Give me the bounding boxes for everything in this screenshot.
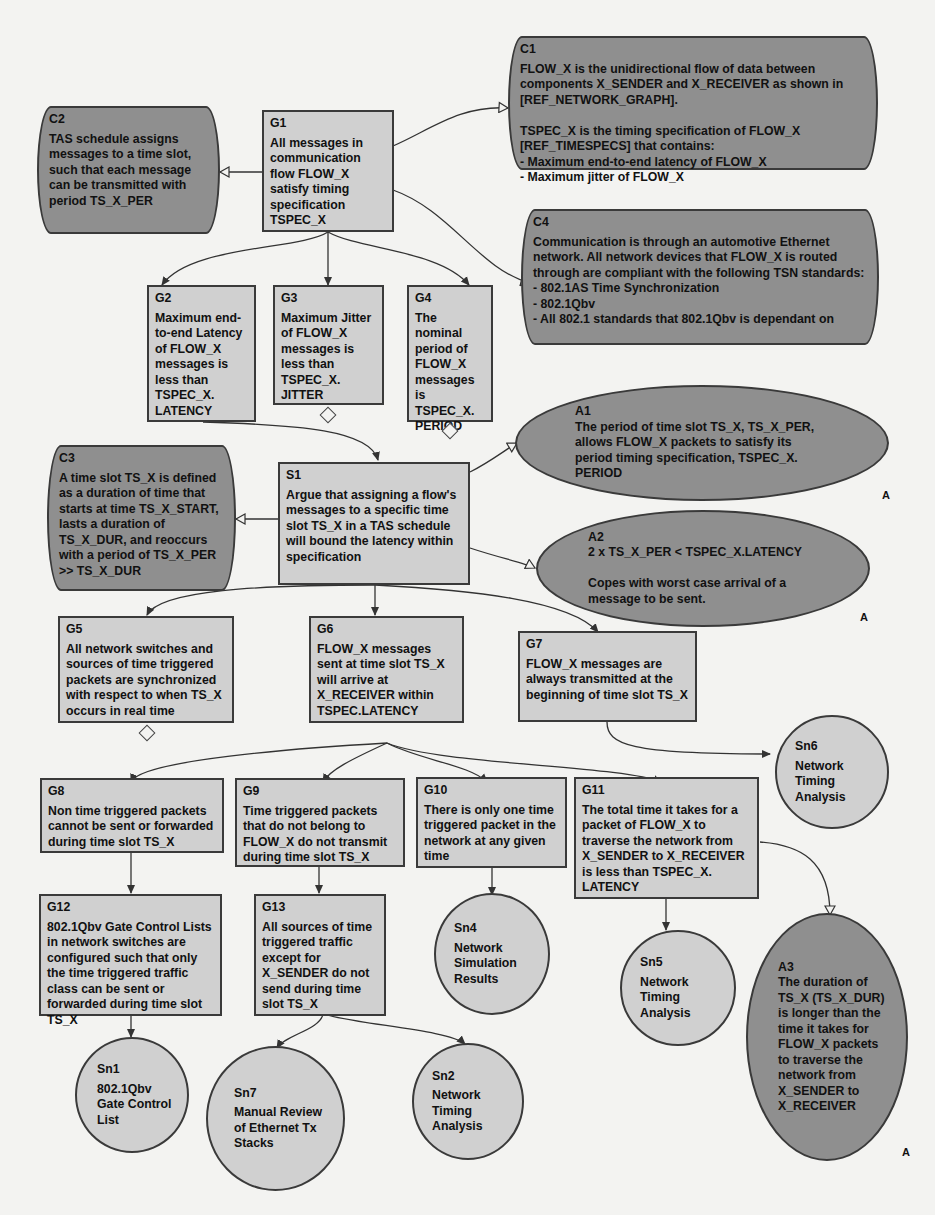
node-id: Sn2 [432,1069,516,1085]
node-id: G11 [582,783,751,799]
node-text: FLOW_X messages are always transmitted a… [526,657,689,704]
undeveloped-diamond-icon [139,725,156,742]
node-id: Sn4 [454,921,542,937]
solution-Sn1[interactable]: Sn1 802.1Qbv Gate Control List [75,1037,189,1153]
node-text: TAS schedule assigns messages to a time … [49,132,212,210]
goal-G3[interactable]: G3 Maximum Jitter of FLOW_X messages is … [273,285,384,405]
goal-G1[interactable]: G1 All messages in communication flow FL… [262,110,394,232]
goal-G10[interactable]: G10 There is only one time triggered pac… [416,777,567,868]
goal-G6[interactable]: G6 FLOW_X messages sent at time slot TS_… [309,616,464,723]
node-text: Network Simulation Results [454,941,542,988]
assumption-marker: A [860,611,868,623]
goal-G13[interactable]: G13 All sources of time triggered traffi… [254,894,386,1016]
node-id: G4 [415,291,485,307]
context-C1[interactable]: C1 FLOW_X is the unidirectional flow of … [508,36,878,170]
node-id: Sn5 [640,955,728,971]
node-text: The nominal period of FLOW_X messages is… [415,311,485,435]
node-id: G2 [155,291,248,307]
gsn-diagram: C2 TAS schedule assigns messages to a ti… [0,0,935,1215]
solution-Sn2[interactable]: Sn2 Network Timing Analysis [412,1043,524,1160]
node-id: G13 [262,900,378,916]
node-id: A2 [588,530,828,546]
undeveloped-diamond-icon [320,407,337,424]
solution-Sn4[interactable]: Sn4 Network Simulation Results [434,893,550,1015]
solution-Sn6[interactable]: Sn6 Network Timing Analysis [775,715,889,829]
solution-Sn7[interactable]: Sn7 Manual Review of Ethernet Tx Stacks [206,1046,345,1191]
node-text: Network Timing Analysis [640,975,728,1022]
node-text: All sources of time triggered traffic ex… [262,920,378,1013]
strategy-S1[interactable]: S1 Argue that assigning a flow's message… [278,462,470,585]
node-text: 802.1Qbv Gate Control List [97,1082,181,1129]
node-id: G9 [243,784,397,800]
node-id: A1 [575,404,827,420]
node-id: Sn6 [795,739,881,755]
node-text: Manual Review of Ethernet Tx Stacks [234,1105,337,1152]
node-id: Sn7 [234,1086,337,1102]
node-id: G10 [424,783,559,799]
node-text: Network Timing Analysis [432,1088,516,1135]
node-id: Sn1 [97,1062,181,1078]
assumption-A1[interactable]: A1 The period of time slot TS_X, TS_X_PE… [515,385,889,501]
node-text: All messages in communication flow FLOW_… [270,136,386,229]
node-id: G3 [281,291,376,307]
node-text: FLOW_X messages sent at time slot TS_X w… [317,642,456,720]
assumption-marker: A [902,1146,910,1158]
node-id: C1 [520,42,870,58]
goal-G2[interactable]: G2 Maximum end-to-end Latency of FLOW_X … [147,285,256,422]
node-text: The duration of TS_X (TS_X_DUR) is longe… [778,975,886,1115]
goal-G4[interactable]: G4 The nominal period of FLOW_X messages… [407,285,493,422]
assumption-A3[interactable]: A3 The duration of TS_X (TS_X_DUR) is lo… [746,913,908,1161]
goal-G12[interactable]: G12 802.1Qbv Gate Control Lists in netwo… [39,894,222,1016]
node-text: Time triggered packets that do not belon… [243,804,397,866]
node-text: Maximum Jitter of FLOW_X messages is les… [281,311,376,404]
assumption-marker: A [882,489,890,501]
goal-G9[interactable]: G9 Time triggered packets that do not be… [235,778,405,867]
node-text: Communication is through an automotive E… [533,235,871,328]
assumption-A2[interactable]: A2 2 x TS_X_PER < TSPEC_X.LATENCY Copes … [536,510,870,627]
solution-Sn5[interactable]: Sn5 Network Timing Analysis [620,930,736,1046]
context-C3[interactable]: C3 A time slot TS_X is defined as a dura… [47,445,236,591]
goal-G11[interactable]: G11 The total time it takes for a packet… [574,777,759,899]
node-text: 802.1Qbv Gate Control Lists in network s… [47,920,214,1029]
goal-G7[interactable]: G7 FLOW_X messages are always transmitte… [518,631,697,722]
node-text: The total time it takes for a packet of … [582,803,751,896]
node-text: Non time triggered packets cannot be sen… [48,804,216,851]
node-id: G7 [526,637,689,653]
node-id: C2 [49,112,212,128]
node-text: A time slot TS_X is defined as a duratio… [59,471,228,580]
goal-G5[interactable]: G5 All network switches and sources of t… [58,616,234,723]
node-id: G1 [270,116,386,132]
node-id: S1 [286,468,462,484]
node-id: G5 [66,622,226,638]
node-text: FLOW_X is the unidirectional flow of dat… [520,62,870,186]
node-text: 2 x TS_X_PER < TSPEC_X.LATENCY Copes wit… [588,545,828,607]
node-text: Network Timing Analysis [795,759,881,806]
context-C4[interactable]: C4 Communication is through an automotiv… [521,209,879,345]
node-id: C4 [533,215,871,231]
node-text: All network switches and sources of time… [66,642,226,720]
node-id: G6 [317,622,456,638]
node-id: G8 [48,784,216,800]
context-C2[interactable]: C2 TAS schedule assigns messages to a ti… [37,106,220,234]
node-id: G12 [47,900,214,916]
node-text: The period of time slot TS_X, TS_X_PER, … [575,420,827,482]
node-text: There is only one time triggered packet … [424,803,559,865]
node-id: A3 [778,960,886,976]
goal-G8[interactable]: G8 Non time triggered packets cannot be … [40,778,224,853]
node-text: Argue that assigning a flow's messages t… [286,488,462,566]
node-id: C3 [59,451,228,467]
node-text: Maximum end-to-end Latency of FLOW_X mes… [155,311,248,420]
